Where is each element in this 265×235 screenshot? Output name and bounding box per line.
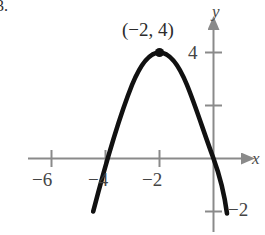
vertex-coordinate-label: (−2, 4) bbox=[122, 20, 174, 39]
x-tick-label-minus2: −2 bbox=[142, 170, 162, 189]
vertex-point-marker bbox=[155, 48, 164, 57]
x-tick-label-minus6: −6 bbox=[32, 170, 52, 189]
y-tick-label-minus2: −2 bbox=[228, 200, 248, 219]
y-axis-label: y bbox=[212, 3, 220, 20]
x-tick-label-minus4: −4 bbox=[88, 170, 108, 189]
parabola-figure: 3. (−2, 4) −6 −4 −2 4 −2 bbox=[0, 0, 265, 235]
x-axis-label: x bbox=[252, 150, 260, 167]
y-tick-label-4: 4 bbox=[188, 43, 198, 62]
